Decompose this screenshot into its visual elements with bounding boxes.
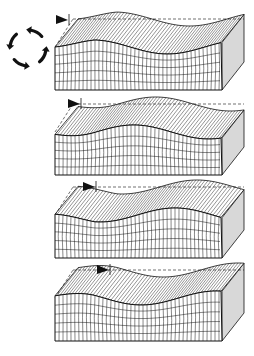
flag-marker-icon (56, 15, 68, 24)
stage-block-1 (55, 12, 244, 90)
stage-block-4 (55, 263, 244, 341)
wave-diagram-figure (0, 0, 254, 356)
circular-motion-arrows-icon (6, 26, 49, 69)
stage-block-2 (55, 97, 244, 175)
stage-block-3 (55, 180, 244, 258)
wave-diagram-canvas (0, 0, 254, 356)
